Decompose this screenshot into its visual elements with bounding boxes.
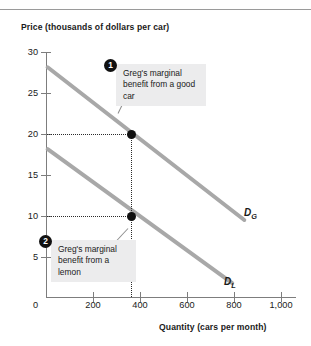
y-tick-15 <box>41 175 51 176</box>
callout-good-car: Greg's marginal benefit from a good car <box>116 64 206 106</box>
chart-canvas: Price (thousands of dollars per car) 30 … <box>0 0 311 346</box>
x-tick-label-800: 800 <box>214 300 254 310</box>
price-20-guide-line <box>47 134 132 135</box>
y-tick-label-5: 5 <box>12 252 38 262</box>
y-tick-label-0: 0 <box>12 300 38 310</box>
y-tick-label-30: 30 <box>12 47 38 57</box>
x-axis-title: Quantity (cars per month) <box>159 322 267 332</box>
curve-label-dg-sub: G <box>251 212 257 221</box>
x-tick-label-600: 600 <box>167 300 207 310</box>
y-tick-25 <box>41 93 51 94</box>
callout-lemon: Greg's marginal benefit from a lemon <box>51 240 136 282</box>
good-car-point <box>127 130 136 139</box>
y-tick-5 <box>41 257 51 258</box>
curve-label-dl: DL <box>224 276 236 290</box>
y-tick-label-15: 15 <box>12 170 38 180</box>
x-tick-label-400: 400 <box>120 300 160 310</box>
callout-1-badge: 1 <box>104 59 117 72</box>
x-axis-line <box>46 297 296 298</box>
y-tick-30 <box>41 52 51 53</box>
y-axis-title: Price (thousands of dollars per car) <box>21 22 169 32</box>
callout-2-badge: 2 <box>39 235 52 248</box>
curve-label-dg: DG <box>244 207 257 221</box>
curve-label-dl-sub: L <box>231 281 236 290</box>
price-10-guide-line <box>47 216 132 217</box>
x-tick-label-200: 200 <box>73 300 113 310</box>
x-tick-label-1000: 1,000 <box>261 300 301 310</box>
y-tick-label-10: 10 <box>12 211 38 221</box>
y-tick-label-25: 25 <box>12 88 38 98</box>
lemon-point <box>127 212 136 221</box>
y-tick-label-20: 20 <box>12 129 38 139</box>
